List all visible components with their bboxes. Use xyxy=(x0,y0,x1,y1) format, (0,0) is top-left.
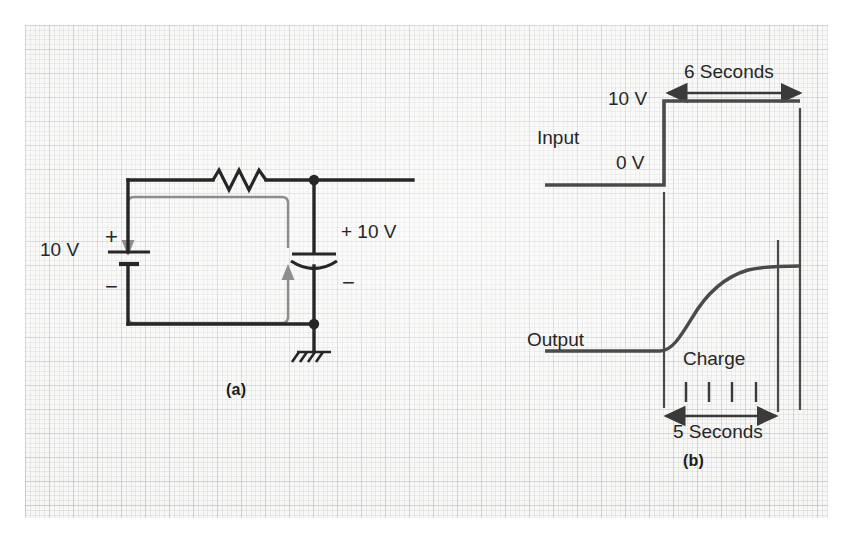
subfigure-label-a: (a) xyxy=(226,381,246,399)
source-plus-sign: + xyxy=(105,226,118,248)
subfigure-label-b: (b) xyxy=(683,452,704,470)
input-step-waveform xyxy=(545,101,800,185)
level-high-label: 10 V xyxy=(608,88,647,110)
source-voltage-label: 10 V xyxy=(40,239,79,261)
charge-tick-marks xyxy=(686,382,756,402)
figure-root: 10 V + − + 10 V − (a) Input 10 V 0 V 6 S… xyxy=(0,0,854,545)
top-span-label: 6 Seconds xyxy=(684,61,774,83)
source-minus-sign: − xyxy=(105,276,118,298)
capacitor-voltage-label: + 10 V xyxy=(341,221,396,243)
output-label: Output xyxy=(527,329,584,351)
ground-symbol-icon xyxy=(292,352,331,362)
junction-dot-top xyxy=(309,175,319,185)
current-loop-indicator xyxy=(128,197,288,323)
current-arrow-up-icon xyxy=(282,264,295,280)
charge-label: Charge xyxy=(683,348,745,370)
capacitor-minus-sign: − xyxy=(342,272,355,294)
input-label: Input xyxy=(537,127,579,149)
circuit-schematic xyxy=(108,170,413,362)
bottom-span-label: 5 Seconds xyxy=(673,421,763,443)
waveform-diagram xyxy=(545,93,800,416)
resistor-symbol xyxy=(213,170,266,190)
level-low-label: 0 V xyxy=(616,152,645,174)
